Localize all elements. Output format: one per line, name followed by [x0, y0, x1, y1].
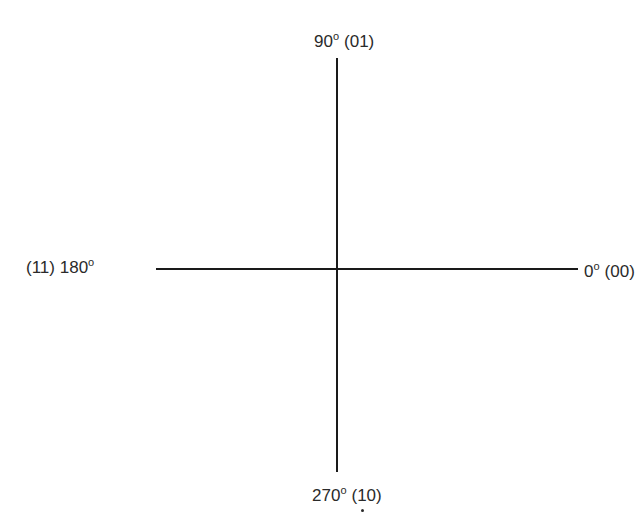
print-speck	[361, 509, 364, 512]
degree-symbol: o	[340, 484, 346, 496]
horizontal-axis-line	[156, 268, 578, 270]
bit-code: (10)	[352, 486, 382, 505]
label-90-degrees: 90o(01)	[314, 32, 374, 52]
label-0-degrees: 0o(00)	[584, 262, 635, 282]
label-180-degrees: (11) 180o	[26, 258, 94, 278]
bit-code: (01)	[344, 32, 374, 51]
bit-code: (00)	[605, 262, 635, 281]
angle-value: 270	[312, 486, 340, 505]
degree-symbol: o	[593, 260, 599, 272]
degree-symbol: o	[88, 256, 94, 268]
degree-symbol: o	[333, 30, 339, 42]
vertical-axis-line	[336, 58, 338, 472]
label-270-degrees: 270o(10)	[312, 486, 382, 506]
bit-code: (11)	[26, 258, 55, 277]
angle-value: 90	[314, 32, 333, 51]
angle-value: 180	[60, 258, 88, 277]
